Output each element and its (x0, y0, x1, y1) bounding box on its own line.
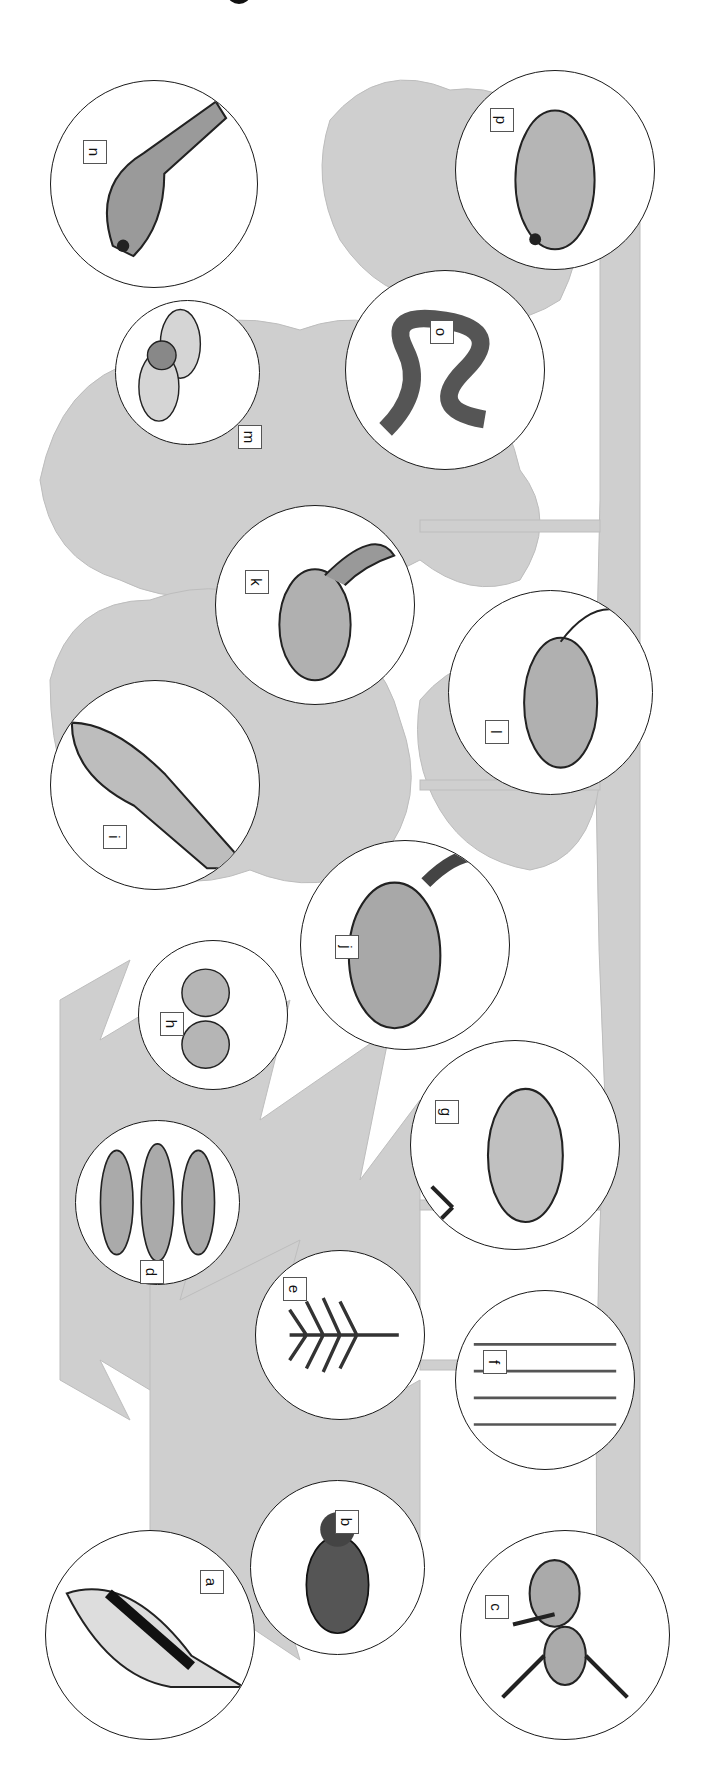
label-f: f (483, 1350, 507, 1374)
songbird-icon (51, 81, 257, 287)
ant-icon (461, 1531, 669, 1739)
label-j: j (335, 935, 359, 959)
fox-icon (301, 841, 509, 1049)
organism-circle-f (455, 1290, 635, 1470)
label-l: l (485, 720, 509, 744)
organism-circle-a (45, 1530, 255, 1740)
label-a: a (200, 1570, 224, 1594)
spruce-twig-icon (256, 1251, 424, 1419)
label-g: g (435, 1100, 459, 1124)
organism-circle-k (215, 505, 415, 705)
mouse-icon (449, 591, 652, 794)
acorns-icon (116, 301, 259, 444)
organism-circle-e (255, 1250, 425, 1420)
label-h: h (160, 1012, 184, 1036)
organism-circle-g (410, 1040, 620, 1250)
label-d: d (140, 1260, 164, 1284)
organism-circle-l (448, 590, 653, 795)
label-c: c (485, 1595, 509, 1619)
label-e: e (283, 1277, 307, 1301)
grasses-icon (456, 1291, 634, 1469)
organism-circle-j (300, 840, 510, 1050)
organism-circle-p (455, 70, 655, 270)
label-b: b (335, 1510, 359, 1534)
label-p: p (490, 108, 514, 132)
organism-circle-n (50, 80, 258, 288)
label-o: o (430, 320, 454, 344)
label-n: n (83, 140, 107, 164)
sparrowhawk-icon (51, 681, 259, 889)
squirrel-icon (216, 506, 414, 704)
woodpecker-icon (46, 1531, 254, 1739)
snake-icon (346, 271, 544, 469)
food-web-illustration: n p m o k l i j h g d (0, 0, 711, 1771)
organism-circle-o (345, 270, 545, 470)
roe-deer-icon (411, 1041, 619, 1249)
organism-circle-m (115, 300, 260, 445)
label-k: k (245, 570, 269, 594)
label-m: m (238, 425, 262, 449)
organism-circle-b (250, 1480, 425, 1655)
bark-beetle-icon (251, 1481, 424, 1654)
frog-icon (456, 71, 654, 269)
label-i: i (103, 825, 127, 849)
organism-circle-c (460, 1530, 670, 1740)
organism-circle-i (50, 680, 260, 890)
